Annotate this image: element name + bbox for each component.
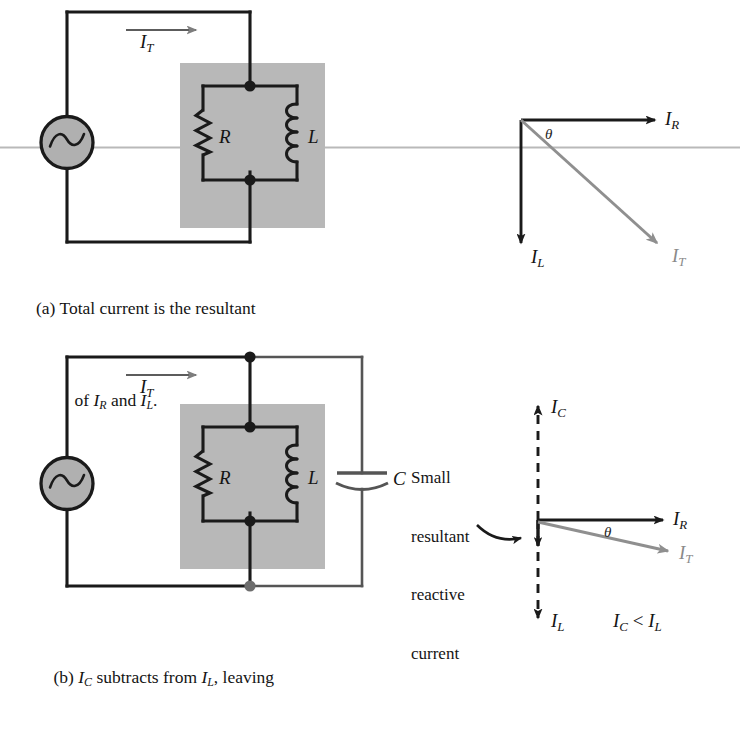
panel-b-phasor-annotation: Small resultant reactive current (411, 429, 470, 683)
panel-a-caption-line-2: of IR and IL. (36, 366, 336, 440)
panel-b-phasor (477, 406, 668, 618)
panel-a-resistor-label: R (219, 126, 231, 148)
panel-a-phasor-il-label: IL (531, 246, 545, 271)
panel-a-circuit (41, 12, 325, 242)
panel-b-annotation-line-3: reactive (411, 585, 470, 605)
panel-a-ac-source (41, 117, 93, 169)
panel-b-resistor-label: R (219, 467, 231, 489)
panel-a-theta-label: θ (545, 126, 552, 143)
panel-b-capacitor-symbol (336, 473, 388, 490)
panel-a-phasor-it-label: IT (672, 245, 686, 270)
panel-a-phasor-it (521, 120, 657, 243)
figure-canvas: IT R L IR IL IT θ (a) Total current is t… (0, 0, 740, 734)
panel-b-inductor-label: L (308, 467, 319, 489)
panel-b-annotation-line-1: Small (411, 468, 470, 488)
panel-a-node-bottom (244, 174, 255, 185)
panel-b-capacitor-label: C (393, 468, 406, 490)
panel-a-caption-line-1: (a) Total current is the resultant (36, 297, 336, 320)
panel-b-annotation-line-4: current (411, 644, 470, 664)
panel-b-caption-line-1: (b) IC subtracts from IL, leaving (36, 643, 356, 717)
panel-b-theta-label: θ (604, 524, 611, 541)
panel-b-phasor-ic-label: IC (551, 396, 566, 421)
panel-a-it-arrow-label: IT (140, 31, 154, 56)
panel-b-caption: (b) IC subtracts from IL, leaving only a… (36, 597, 356, 734)
panel-b-it-arrow-label: IT (140, 376, 154, 401)
panel-b-ac-source (41, 458, 93, 510)
panel-a-phasor-ir-label: IR (665, 108, 679, 133)
panel-a-phasor (521, 120, 657, 243)
panel-b-node-bottom (244, 515, 255, 526)
panel-b-phasor-it (538, 522, 668, 551)
panel-b-annotation-leader-arrow (477, 525, 521, 539)
panel-b-phasor-ir-label: IR (673, 508, 687, 533)
panel-b-inequality-label: IC < IL (613, 610, 662, 635)
panel-b-annotation-line-2: resultant (411, 527, 470, 547)
panel-b-node-bottom-outer (244, 580, 255, 591)
panel-b-phasor-il-label: IL (551, 610, 565, 635)
panel-b-phasor-it-label: IT (679, 542, 693, 567)
panel-a-inductor-label: L (308, 126, 319, 148)
panel-a-caption: (a) Total current is the resultant of IR… (36, 251, 336, 463)
panel-a-node-top (244, 80, 255, 91)
